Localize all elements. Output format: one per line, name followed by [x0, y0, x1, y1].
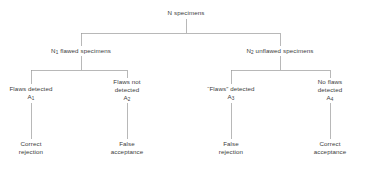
outcome-correct-rejection-line2: rejection: [19, 148, 43, 156]
outcome-false-rejection-line1: False: [219, 140, 243, 148]
node-unflawed-specimens: N2 unflawed specimens: [247, 47, 314, 56]
node-no-flaws-detected-line1: No flaws: [318, 78, 343, 86]
decision-tree-diagram: N specimens N1 flawed specimens N2 unfla…: [0, 0, 374, 171]
node-flaws-not-detected-code: A2: [113, 94, 140, 103]
node-unflawed-specimens-label: N2 unflawed specimens: [247, 47, 314, 56]
node-root-label: N specimens: [168, 9, 205, 17]
node-flaws-not-detected-line2: detected: [113, 86, 140, 94]
outcome-false-acceptance: False acceptance: [111, 140, 144, 155]
outcome-correct-rejection: Correct rejection: [19, 140, 43, 155]
node-false-flaws-detected-line1: “Flaws” detected: [207, 85, 254, 93]
node-flaws-not-detected: Flaws not detected A2: [113, 78, 140, 102]
node-flaws-detected-code: A1: [9, 93, 52, 102]
node-flaws-detected: Flaws detected A1: [9, 85, 52, 102]
node-flaws-not-detected-line1: Flaws not: [113, 78, 140, 86]
node-no-flaws-detected: No flaws detected A4: [318, 78, 343, 102]
outcome-correct-acceptance-line1: Correct: [314, 140, 347, 148]
node-flawed-specimens-label: N1 flawed specimens: [51, 47, 111, 56]
outcome-false-acceptance-line1: False: [111, 140, 144, 148]
node-no-flaws-detected-code: A4: [318, 94, 343, 103]
outcome-correct-acceptance-line2: acceptance: [314, 148, 347, 156]
outcome-correct-acceptance: Correct acceptance: [314, 140, 347, 155]
outcome-correct-rejection-line1: Correct: [19, 140, 43, 148]
node-flaws-detected-line1: Flaws detected: [9, 85, 52, 93]
outcome-false-rejection-line2: rejection: [219, 148, 243, 156]
outcome-false-rejection: False rejection: [219, 140, 243, 155]
node-root: N specimens: [168, 9, 205, 17]
outcome-false-acceptance-line2: acceptance: [111, 148, 144, 156]
node-flawed-specimens: N1 flawed specimens: [51, 47, 111, 56]
node-false-flaws-detected-code: A3: [207, 93, 254, 102]
node-false-flaws-detected: “Flaws” detected A3: [207, 85, 254, 102]
node-no-flaws-detected-line2: detected: [318, 86, 343, 94]
